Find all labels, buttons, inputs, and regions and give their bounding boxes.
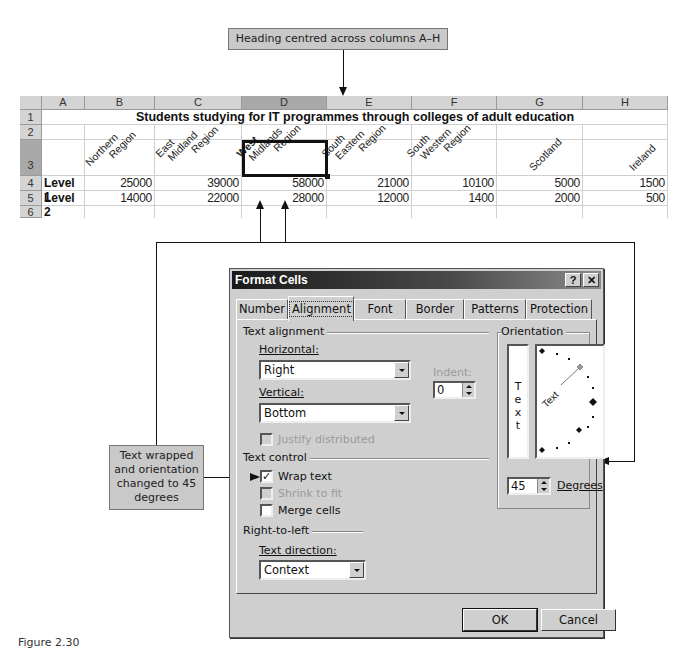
cell-g3[interactable]: Scotland [497,140,583,176]
tab-label: Protection [530,302,588,316]
cell-h6[interactable] [583,206,668,218]
cell-b3[interactable]: Northern Region [85,140,155,176]
cell-b4[interactable]: 25000 [85,176,155,191]
cell-b6[interactable] [85,206,155,218]
cell-g2[interactable] [497,125,583,140]
column-header-c[interactable]: C [155,96,242,110]
cell-b5[interactable]: 14000 [85,191,155,206]
column-header-a[interactable]: A [42,96,85,110]
row-header-5[interactable]: 5 [20,191,42,206]
wrap-text-checkbox[interactable]: ✓ [260,470,273,483]
tab-protection[interactable]: Protection [526,299,592,320]
horizontal-select[interactable]: Right [259,360,411,380]
cell-g4[interactable]: 5000 [497,176,583,191]
cell-f3[interactable]: South Western Region [412,140,497,176]
row-header-6[interactable]: 6 [20,206,42,218]
spinner-arrows-icon[interactable] [537,479,549,493]
tab-label: Border [416,302,455,316]
cancel-button[interactable]: Cancel [541,609,616,631]
dialog-titlebar[interactable]: Format Cells ? ✕ [232,271,601,289]
chevron-down-icon[interactable] [394,362,409,378]
cell-e4[interactable]: 21000 [327,176,412,191]
heading-callout-arrow [339,87,347,96]
cell-a6[interactable] [42,206,85,218]
tab-number[interactable]: Number [236,299,288,320]
horizontal-label-text: Horizontal: [259,343,319,356]
cell-c5[interactable]: 22000 [155,191,242,206]
tab-label: Font [367,302,392,316]
indent-spinner[interactable]: 0 [433,381,476,399]
vertical-text-char: T [509,380,527,393]
heading-callout-connector [343,50,344,88]
cell-g5[interactable]: 2000 [497,191,583,206]
row-header-1[interactable]: 1 [20,110,42,125]
cell-h2[interactable] [583,125,668,140]
connector-vertical-1 [260,207,261,243]
column-header-h[interactable]: H [583,96,668,110]
tab-border[interactable]: Border [406,299,464,320]
column-header-f[interactable]: F [412,96,497,110]
cell-g6[interactable] [497,206,583,218]
horizontal-value: Right [264,363,294,377]
chevron-down-icon[interactable] [394,405,409,421]
cell-e3[interactable]: South Eastern Region [327,140,412,176]
cell-a3[interactable] [42,140,85,176]
cell-f6[interactable] [412,206,497,218]
heading-callout-text: Heading centred across columns A–H [236,32,441,45]
vertical-label-text: Vertical: [259,386,304,399]
merge-cells-checkbox[interactable] [260,504,273,517]
wrap-orientation-callout: Text wrapped and orientation changed to … [109,445,204,510]
help-button[interactable]: ? [565,273,581,287]
column-header-b[interactable]: B [85,96,155,110]
select-all-corner[interactable] [20,96,42,110]
column-header-g[interactable]: G [497,96,583,110]
vertical-text-option[interactable]: T e x t [507,344,529,459]
row-header-2[interactable]: 2 [20,125,42,140]
indent-label: Indent: [433,366,472,379]
shrink-to-fit-checkbox[interactable] [260,487,273,500]
cell-a5[interactable]: Level 2 [42,191,85,206]
fill-handle[interactable] [325,174,330,179]
dialog-title: Format Cells [235,273,308,287]
row-header-3[interactable]: 3 [20,140,42,176]
wrap-text-label: Wrap text [278,470,332,483]
cell-a4[interactable]: Level 1 [42,176,85,191]
cell-d4[interactable]: 58000 [242,176,327,191]
degrees-label-text: Degrees [557,479,603,492]
cell-h4[interactable]: 1500 [583,176,668,191]
tab-alignment[interactable]: Alignment [288,296,354,321]
close-button[interactable]: ✕ [583,273,599,287]
text-direction-value: Context [264,563,309,577]
orientation-dial[interactable]: Text [535,344,605,459]
right-to-left-heading: Right-to-left [243,524,312,537]
cell-c6[interactable] [155,206,242,218]
column-header-d[interactable]: D [242,96,327,110]
cell-f5[interactable]: 1400 [412,191,497,206]
vertical-select[interactable]: Bottom [259,403,411,423]
active-cell-d3[interactable] [242,140,328,177]
column-header-e[interactable]: E [327,96,412,110]
tab-label: Number [239,302,285,316]
cell-f4[interactable]: 10100 [412,176,497,191]
alignment-panel: Text alignment Horizontal: Right Indent:… [236,319,597,594]
vertical-text-char: e [509,393,527,406]
tab-font[interactable]: Font [354,299,406,320]
cell-e6[interactable] [327,206,412,218]
text-control-heading: Text control [243,451,310,464]
cell-a2[interactable] [42,125,85,140]
cell-e5[interactable]: 12000 [327,191,412,206]
tab-patterns[interactable]: Patterns [464,299,526,320]
row-header-4[interactable]: 4 [20,176,42,191]
text-direction-select[interactable]: Context [259,560,366,580]
cell-c4[interactable]: 39000 [155,176,242,191]
svg-text:Text: Text [540,389,561,410]
ok-button[interactable]: OK [463,609,537,631]
cell-h3[interactable]: Ireland [583,140,668,176]
callout-line: changed to 45 [110,477,203,491]
cell-c3[interactable]: East Midland Region [155,140,242,176]
justify-distributed-checkbox[interactable] [260,433,273,446]
spinner-arrows-icon[interactable] [462,383,474,397]
cell-h5[interactable]: 500 [583,191,668,206]
chevron-down-icon[interactable] [349,562,364,578]
degrees-spinner[interactable]: 45 [507,477,551,495]
